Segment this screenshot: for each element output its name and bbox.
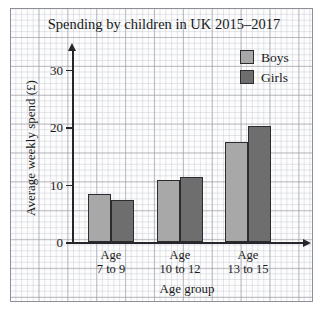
legend-swatch-boys [240,50,254,64]
bar-age-10-to-12-girls [180,177,203,243]
x-axis-arrow-icon [303,239,311,247]
x-category-label-2-line1: Age [170,248,191,262]
legend-label-girls: Girls [261,71,288,85]
chart-plot-area: Spending by children in UK 2015–2017 0 1… [0,0,323,312]
y-axis-line [72,50,74,244]
bar-age-13-to-15-girls [248,126,271,243]
y-tick-label-0: 0 [37,236,63,249]
y-tick-label-10: 10 [37,179,63,192]
y-tick-20 [66,127,73,128]
x-category-label-3-line1: Age [238,248,259,262]
bar-age-7-to-9-boys [88,194,111,243]
x-category-label-3-line2: 13 to 15 [200,262,296,276]
x-category-label-3: Age 13 to 15 [200,248,296,276]
legend-swatch-girls [240,70,254,84]
y-tick-30 [66,70,73,71]
chart-title: Spending by children in UK 2015–2017 [38,14,290,34]
legend-label-boys: Boys [261,51,289,65]
x-category-label-1-line1: Age [101,248,122,262]
y-tick-0 [66,242,73,243]
bar-age-13-to-15-boys [225,142,248,242]
x-axis-line [72,242,305,244]
bar-age-10-to-12-boys [157,180,180,243]
y-tick-label-20: 20 [37,121,63,134]
bar-age-7-to-9-girls [111,200,134,242]
x-axis-title: Age group [112,281,262,297]
y-axis-arrow-icon [68,43,76,51]
y-tick-10 [66,185,73,186]
y-axis-title: Average weekly spend (£) [23,68,39,228]
chart-canvas: Spending by children in UK 2015–2017 0 1… [0,0,323,312]
y-tick-label-30: 30 [37,64,63,77]
